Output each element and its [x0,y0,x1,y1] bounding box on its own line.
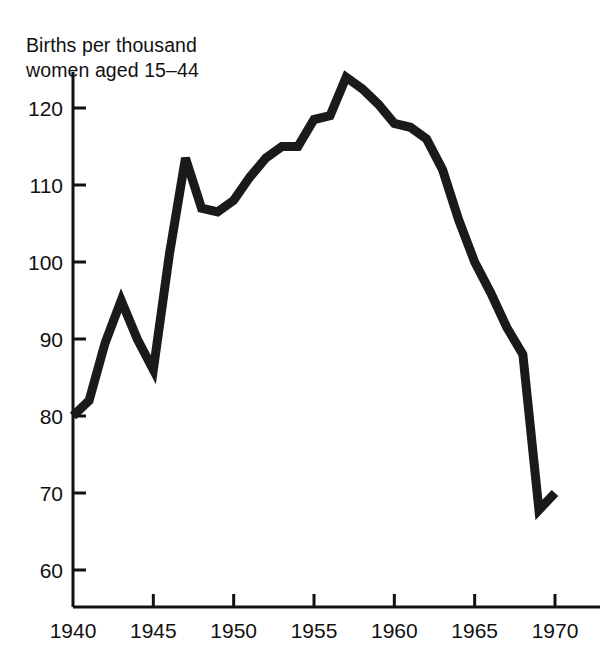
x-axis-tick-label: 1955 [291,619,338,642]
y-axis-ticks [73,108,86,570]
y-axis-tick-label: 60 [40,559,63,582]
y-axis-tick-label: 100 [28,251,63,274]
x-axis-tick-label: 1965 [451,619,498,642]
x-axis-tick-label: 1960 [371,619,418,642]
x-axis-tick-labels: 1940194519501955196019651970 [50,619,579,642]
x-axis-tick-label: 1940 [50,619,97,642]
y-axis-tick-label: 80 [40,405,63,428]
y-axis-tick-label: 90 [40,328,63,351]
y-axis-tick-label: 120 [28,97,63,120]
x-axis-tick-label: 1970 [532,619,579,642]
birth-rate-data-line [73,77,555,510]
y-axis-tick-label: 70 [40,482,63,505]
x-axis-tick-label: 1945 [130,619,177,642]
line-chart-plot: 60708090100110120 1940194519501955196019… [0,0,612,658]
y-axis-tick-label: 110 [30,174,63,197]
x-axis-ticks [153,594,555,607]
y-axis-tick-labels: 60708090100110120 [28,97,63,582]
chart-figure: Births per thousandwomen aged 15–44 6070… [0,0,612,658]
x-axis-tick-label: 1950 [210,619,257,642]
